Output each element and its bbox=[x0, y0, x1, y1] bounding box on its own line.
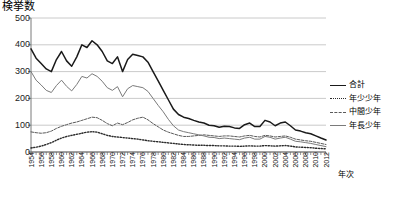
x-tick-label: 2012 bbox=[323, 152, 330, 168]
legend-line-icon-middle bbox=[330, 108, 346, 116]
legend-label-total: 合計 bbox=[349, 78, 365, 92]
x-tick-label: 1964 bbox=[78, 152, 85, 168]
x-tick-label: 1994 bbox=[231, 152, 238, 168]
legend-item-middle[interactable]: 中間少年 bbox=[330, 105, 414, 119]
legend-item-younger[interactable]: 年少少年 bbox=[330, 92, 414, 106]
x-tick-label: 1968 bbox=[99, 152, 106, 168]
x-tick-label: 1966 bbox=[89, 152, 96, 168]
x-tick-label: 1978 bbox=[150, 152, 157, 168]
x-tick-label: 1956 bbox=[38, 152, 45, 168]
y-tick-label: 200 bbox=[4, 94, 30, 103]
x-tick-label: 1976 bbox=[139, 152, 146, 168]
x-tick-label: 1972 bbox=[119, 152, 126, 168]
y-tick-label: 500 bbox=[4, 14, 30, 23]
x-tick-label: 1984 bbox=[180, 152, 187, 168]
series-line-2 bbox=[31, 117, 326, 144]
chart-legend: 合計 年少少年 中間少年 年長少年 bbox=[330, 78, 414, 132]
series-line-1 bbox=[31, 132, 326, 149]
legend-line-icon-total bbox=[330, 81, 346, 89]
legend-label-younger: 年少少年 bbox=[349, 92, 381, 106]
x-tick-label: 2008 bbox=[302, 152, 309, 168]
x-tick-label: 1992 bbox=[221, 152, 228, 168]
y-tick-label: 300 bbox=[4, 67, 30, 76]
x-tick-label: 1988 bbox=[200, 152, 207, 168]
x-tick-label: 1980 bbox=[160, 152, 167, 168]
legend-item-total[interactable]: 合計 bbox=[330, 78, 414, 92]
x-tick-label: 2000 bbox=[261, 152, 268, 168]
x-tick-label: 2002 bbox=[272, 152, 279, 168]
x-tick-label: 1974 bbox=[129, 152, 136, 168]
x-tick-label: 1960 bbox=[58, 152, 65, 168]
legend-line-icon-older bbox=[330, 121, 346, 129]
x-tick-label: 1970 bbox=[109, 152, 116, 168]
legend-label-older: 年長少年 bbox=[349, 119, 381, 133]
legend-item-older[interactable]: 年長少年 bbox=[330, 119, 414, 133]
x-tick-label: 1998 bbox=[251, 152, 258, 168]
x-tick-label: 1962 bbox=[68, 152, 75, 168]
x-axis-title: 年次 bbox=[338, 170, 354, 179]
x-tick-label: 1990 bbox=[211, 152, 218, 168]
legend-line-icon-younger bbox=[330, 94, 346, 102]
x-tick-label: 2006 bbox=[292, 152, 299, 168]
series-line-3 bbox=[31, 72, 326, 147]
chart-container: 検挙数 0100200300400500 1954195619581960196… bbox=[0, 0, 416, 197]
legend-label-middle: 中間少年 bbox=[349, 105, 381, 119]
x-tick-label: 1954 bbox=[28, 152, 35, 168]
x-axis-ticks: 1954195619581960196219641966196819701972… bbox=[0, 150, 416, 186]
y-tick-label: 100 bbox=[4, 121, 30, 130]
x-tick-label: 1958 bbox=[48, 152, 55, 168]
x-tick-label: 1982 bbox=[170, 152, 177, 168]
x-tick-label: 1996 bbox=[241, 152, 248, 168]
x-tick-label: 1986 bbox=[190, 152, 197, 168]
x-tick-label: 2010 bbox=[312, 152, 319, 168]
x-tick-label: 2004 bbox=[282, 152, 289, 168]
y-tick-label: 400 bbox=[4, 40, 30, 49]
